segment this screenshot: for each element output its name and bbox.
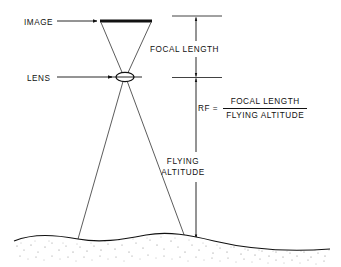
flying-altitude-label: FLYING ALTITUDE bbox=[155, 156, 211, 178]
rf-formula-denominator: FLYING ALTITUDE bbox=[223, 109, 307, 120]
lens-label: LENS bbox=[27, 73, 51, 84]
rf-formula: RF = FOCAL LENGTH FLYING ALTITUDE bbox=[198, 97, 307, 120]
ground-ray-left bbox=[78, 78, 124, 239]
focal-length-label: FOCAL LENGTH bbox=[150, 44, 219, 55]
image-ray-right bbox=[126, 23, 151, 78]
diagram-canvas: IMAGE LENS FOCAL LENGTH FLYING ALTITUDE … bbox=[0, 0, 341, 267]
rf-formula-fraction: FOCAL LENGTH FLYING ALTITUDE bbox=[223, 97, 307, 120]
photogrammetry-scale-diagram bbox=[0, 0, 341, 267]
rf-formula-numerator: FOCAL LENGTH bbox=[228, 97, 303, 108]
rf-formula-lhs: RF = bbox=[198, 104, 218, 113]
flying-altitude-label-line1: FLYING bbox=[155, 156, 211, 167]
flying-altitude-label-line2: ALTITUDE bbox=[155, 167, 211, 178]
terrain-stipple-fill bbox=[0, 225, 341, 267]
image-ray-left bbox=[101, 23, 124, 78]
image-plane-label: IMAGE bbox=[24, 17, 53, 28]
